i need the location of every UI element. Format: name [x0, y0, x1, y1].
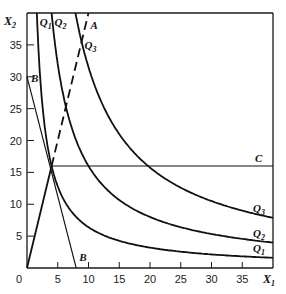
y-tick-label: 30 [10, 71, 22, 83]
label-b-bottom: B [78, 251, 86, 263]
label-b-top: B [30, 72, 38, 84]
label-q1-top: Q1 [40, 16, 52, 31]
ticks: 51015202530355101520253035 [10, 39, 249, 285]
x-axis-title-sub: 1 [271, 279, 275, 288]
x-tick-label: 35 [236, 273, 248, 285]
y-axis-title-sub: 2 [11, 21, 16, 30]
label-c: C [255, 152, 263, 164]
x-tick-label: 15 [113, 273, 125, 285]
x-tick-label: 10 [82, 273, 94, 285]
y-tick-label: 25 [10, 103, 22, 115]
line-a-dashed [52, 13, 89, 166]
isoquant-chart: 51015202530355101520253035 Q1Q1Q2Q2Q3Q3A… [0, 0, 286, 294]
label-q2-right: Q2 [253, 227, 265, 242]
y-tick-label: 15 [10, 166, 22, 178]
label-q2-top: Q2 [55, 16, 67, 31]
y-tick-label: 20 [10, 135, 22, 147]
isoquant-q1 [37, 13, 273, 258]
y-axis-title: X2 [3, 14, 16, 30]
series: Q1Q1Q2Q2Q3Q3ABBC [27, 13, 273, 268]
y-tick-label: 35 [10, 39, 22, 51]
line-a-solid [27, 166, 52, 268]
origin-label: 0 [16, 273, 22, 285]
y-tick-label: 5 [16, 230, 22, 242]
x-tick-label: 30 [205, 273, 217, 285]
x-tick-label: 20 [144, 273, 156, 285]
label-a: A [90, 19, 98, 31]
x-tick-label: 5 [55, 273, 61, 285]
x-tick-label: 25 [175, 273, 187, 285]
x-axis-title: X1 [262, 272, 275, 288]
labels: 0 X1 X2 [3, 14, 275, 288]
y-tick-label: 10 [10, 198, 22, 210]
axes [27, 13, 273, 268]
label-q1-right: Q1 [253, 242, 265, 257]
label-q3-top: Q3 [84, 39, 96, 54]
